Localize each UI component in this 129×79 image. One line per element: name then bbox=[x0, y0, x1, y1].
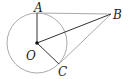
center-point-o bbox=[35, 41, 39, 45]
label-o: O bbox=[26, 49, 36, 63]
tangent-ab bbox=[37, 13, 111, 14]
label-c: C bbox=[58, 65, 67, 79]
label-b: B bbox=[112, 8, 122, 22]
segment-ob bbox=[37, 14, 111, 43]
radius-oc bbox=[37, 43, 59, 64]
geometry-diagram: A B O C bbox=[0, 0, 129, 79]
label-a: A bbox=[33, 1, 43, 15]
